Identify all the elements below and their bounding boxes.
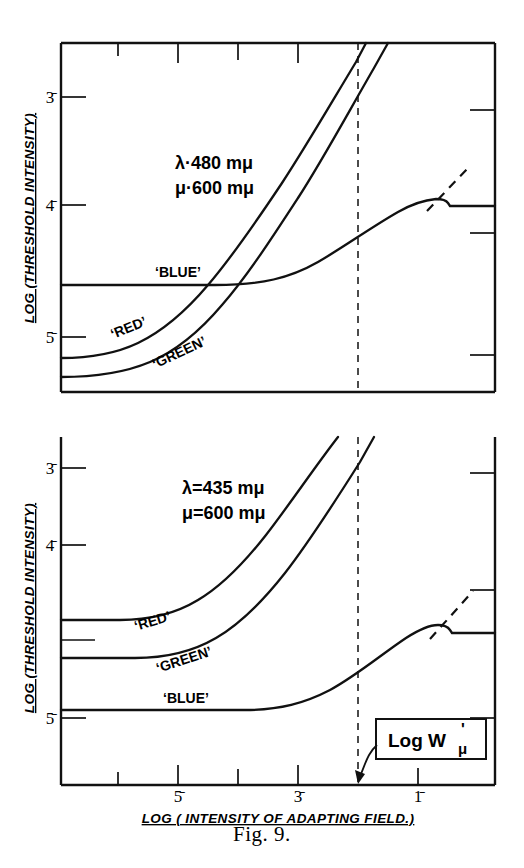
curve-red-upper [61,43,366,358]
lower-x-ticks [118,765,418,785]
upper-y-tick-label: 3̄ [46,88,58,107]
lower-x-tick-label: 1̄ [414,787,426,806]
lower-y-tick-label: 5̄ [46,709,58,728]
lower-conditions: λ=435 mμ μ=600 mμ [182,478,266,523]
log-w-mu-callout-prime: ' [461,721,465,738]
upper-y-axis-title: LOG (THRESHOLD INTENSITY) [22,113,37,323]
upper-x-ticks [118,43,298,63]
curve-blue-upper [61,199,495,285]
curve-label-blue-lower: ‘BLUE’ [163,690,209,706]
upper-y-tick-label: 4̄ [46,196,58,215]
log-w-mu-callout-label: Log W [388,730,446,751]
log-w-mu-callout-subscript: μ [458,740,467,757]
lower-y-tick-label: 3̄ [46,459,58,478]
upper-panel-frame [61,43,495,392]
figure-canvas: 3̄ 4̄ 5̄ λ·480 mμ μ·600 mμ ‘BLUE’ ‘RED’ … [0,0,524,868]
upper-condition-line-1: λ·480 mμ [175,153,253,173]
lower-y-tick-labels: 3̄ 4̄ 5̄ [46,459,58,728]
lower-x-tick-label: 5̄ [174,787,186,806]
log-w-mu-callout-arrow [361,745,377,774]
log-w-mu-callout: Log W ' μ [355,719,486,784]
figure-caption: Fig. 9. [0,822,524,847]
lower-panel: 5̄ 3̄ 1̄ 3̄ 4̄ 5̄ [22,437,495,826]
curve-label-green-lower: ‘GREEN’ [154,643,214,676]
upper-panel: 3̄ 4̄ 5̄ λ·480 mμ μ·600 mμ ‘BLUE’ ‘RED’ … [22,43,495,392]
upper-y-tick-labels: 3̄ 4̄ 5̄ [46,88,58,347]
lower-y-tick-label: 4̄ [46,536,58,555]
curve-label-red-lower: ‘RED’ [132,608,172,634]
upper-y-ticks-right [470,110,495,355]
lower-y-ticks-left [61,468,95,718]
curve-label-green-upper: ‘GREEN’ [150,333,209,372]
lower-y-ticks-right [470,473,495,718]
lower-condition-line-1: λ=435 mμ [182,478,265,498]
lower-x-tick-label: 3̄ [294,787,306,806]
curve-red-lower [61,437,338,620]
log-w-mu-callout-arrowhead [355,770,365,784]
lower-condition-line-2: μ=600 mμ [182,503,266,523]
upper-condition-line-2: μ·600 mμ [175,178,254,198]
upper-y-ticks-left [61,97,95,337]
lower-x-tick-labels: 5̄ 3̄ 1̄ [174,787,426,806]
curve-label-red-upper: ‘RED’ [108,313,149,342]
curve-label-blue-upper: ‘BLUE’ [155,264,201,280]
upper-y-tick-label: 5̄ [46,328,58,347]
curve-green-lower [61,437,374,658]
figure-9: 3̄ 4̄ 5̄ λ·480 mμ μ·600 mμ ‘BLUE’ ‘RED’ … [0,0,524,868]
lower-y-axis-title: LOG (THRESHOLD INTENSITY) [22,503,37,713]
upper-conditions: λ·480 mμ μ·600 mμ [175,153,254,198]
